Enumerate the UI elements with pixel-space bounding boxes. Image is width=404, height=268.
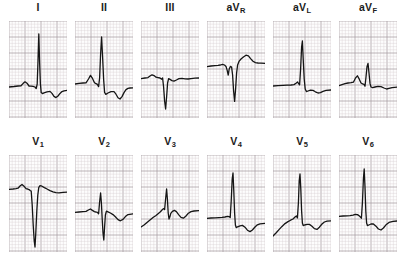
lead-graph-aVL [273,21,331,118]
lead-graph-V2 [75,155,133,252]
lead-panel-aVF[interactable]: aVF [339,0,397,134]
lead-panel-V6[interactable]: V6 [339,134,397,268]
lead-label-V1: V1 [9,135,67,149]
lead-label-III: III [141,1,199,15]
ecg-row-chest-leads: V1 V2 V3 [0,134,404,268]
lead-graph-V6 [339,155,397,252]
lead-panel-V2[interactable]: V2 [75,134,133,268]
lead-graph-aVR [207,21,265,118]
lead-label-aVR: aVR [207,1,265,15]
lead-panel-I[interactable]: I [9,0,67,134]
lead-label-V5: V5 [273,135,331,149]
lead-panel-V1[interactable]: V1 [9,134,67,268]
lead-graph-V4 [207,155,265,252]
lead-label-II: II [75,1,133,15]
lead-graph-III [141,21,199,118]
lead-label-aVL: aVL [273,1,331,15]
ecg-sheet: I II III [0,0,404,268]
lead-graph-aVF [339,21,397,118]
lead-graph-V1 [9,155,67,252]
lead-panel-aVL[interactable]: aVL [273,0,331,134]
lead-label-I: I [9,1,67,15]
lead-panel-V3[interactable]: V3 [141,134,199,268]
lead-label-V2: V2 [75,135,133,149]
lead-panel-II[interactable]: II [75,0,133,134]
ecg-row-limb-leads: I II III [0,0,404,134]
lead-graph-V3 [141,155,199,252]
lead-graph-II [75,21,133,118]
lead-panel-aVR[interactable]: aVR [207,0,265,134]
lead-label-V4: V4 [207,135,265,149]
lead-panel-V4[interactable]: V4 [207,134,265,268]
lead-panel-V5[interactable]: V5 [273,134,331,268]
lead-label-aVF: aVF [339,1,397,15]
lead-label-V6: V6 [339,135,397,149]
lead-label-V3: V3 [141,135,199,149]
lead-panel-III[interactable]: III [141,0,199,134]
lead-graph-V5 [273,155,331,252]
lead-graph-I [9,21,67,118]
